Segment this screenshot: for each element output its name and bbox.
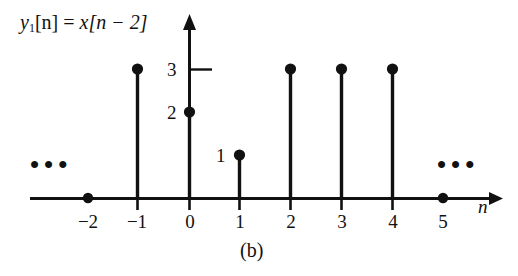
amplitude-label-1: 1 <box>216 146 226 165</box>
figure-caption: (b) <box>240 240 263 260</box>
x-tick-label-1: 1 <box>222 212 258 231</box>
ellipsis-right-icon: ••• <box>437 152 479 178</box>
x-axis-arrowhead <box>489 192 503 205</box>
x-axis-label: n <box>478 197 488 216</box>
sample-dot-n-0 <box>184 106 195 117</box>
stem-n-4 <box>387 63 398 198</box>
title-equals: = <box>63 11 74 33</box>
sample-dot-n-3 <box>336 63 347 74</box>
x-tick-label-0: 0 <box>172 212 208 231</box>
stem-n--1 <box>132 63 143 198</box>
figure-panel: y1[n] = x[n − 2] 3 2 1 −2 −1 0 1 2 3 4 5… <box>0 0 518 276</box>
ellipsis-left-icon: ••• <box>30 152 72 178</box>
y-axis-arrowhead <box>183 14 196 30</box>
sample-dot-n-1 <box>234 149 245 160</box>
sample-dot-n-5 <box>438 193 448 203</box>
stem-plot-svg <box>0 0 518 276</box>
stem-n-2 <box>285 63 296 198</box>
x-tick-label-3: 3 <box>324 212 360 231</box>
stem-n--2 <box>83 193 93 203</box>
x-tick-label-5: 5 <box>425 212 461 231</box>
amplitude-label-2: 2 <box>167 103 177 122</box>
sample-dot-n-2 <box>285 63 296 74</box>
stem-n-5 <box>438 193 448 203</box>
x-tick-label--2: −2 <box>70 212 106 231</box>
stem-n-1 <box>234 149 245 198</box>
x-tick-label-4: 4 <box>375 212 411 231</box>
sample-dot-n--1 <box>132 63 143 74</box>
sample-dot-n--2 <box>83 193 93 203</box>
plot-title: y1[n] = x[n − 2] <box>20 12 147 34</box>
title-rhs: x[n − 2] <box>80 11 148 33</box>
sample-dot-n-4 <box>387 63 398 74</box>
amplitude-label-3: 3 <box>167 60 177 79</box>
title-argument: [n] <box>35 11 58 33</box>
x-tick-label-2: 2 <box>273 212 309 231</box>
title-function: y <box>20 11 29 33</box>
stem-n-3 <box>336 63 347 198</box>
stem-n-0 <box>184 106 195 198</box>
x-tick-label--1: −1 <box>119 212 155 231</box>
x-axis <box>30 192 503 205</box>
